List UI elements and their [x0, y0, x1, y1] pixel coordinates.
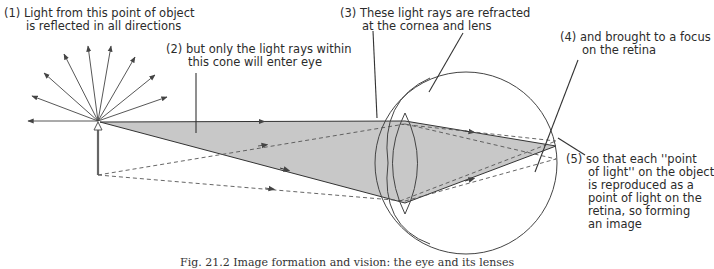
label-5-number: (5) — [566, 152, 582, 166]
leader-3a — [373, 31, 377, 118]
label-2-line1: but only the light rays within — [186, 42, 352, 56]
figure-caption: Fig. 21.2 Image formation and vision: th… — [180, 256, 514, 269]
label-5: (5) so that each ''point of light'' on t… — [566, 153, 714, 231]
label-1-line1: Light from this point of object — [24, 6, 195, 20]
radiating-rays — [28, 46, 167, 121]
label-4-number: (4) — [560, 30, 576, 44]
label-4-line1: and brought to a focus — [580, 30, 711, 44]
leader-3b — [429, 33, 463, 92]
label-1: (1) Light from this point of object is r… — [4, 7, 195, 33]
label-3-line2: at the cornea and lens — [340, 20, 530, 33]
object-arrow — [94, 122, 102, 175]
label-1-number: (1) — [4, 6, 20, 20]
label-3: (3) These light rays are refracted at th… — [340, 7, 530, 33]
label-3-number: (3) — [340, 6, 356, 20]
label-4: (4) and brought to a focus on the retina — [560, 31, 711, 57]
label-5-line1: so that each ''point — [586, 152, 697, 166]
label-2: (2) but only the light rays within this … — [166, 43, 351, 69]
label-2-line2: this cone will enter eye — [166, 56, 351, 69]
label-3-line1: These light rays are refracted — [360, 6, 530, 20]
label-1-line2: is reflected in all directions — [4, 20, 195, 33]
light-cone — [100, 121, 556, 203]
label-4-line2: on the retina — [560, 44, 711, 57]
label-5-line6: an image — [566, 218, 714, 231]
label-2-number: (2) — [166, 42, 182, 56]
